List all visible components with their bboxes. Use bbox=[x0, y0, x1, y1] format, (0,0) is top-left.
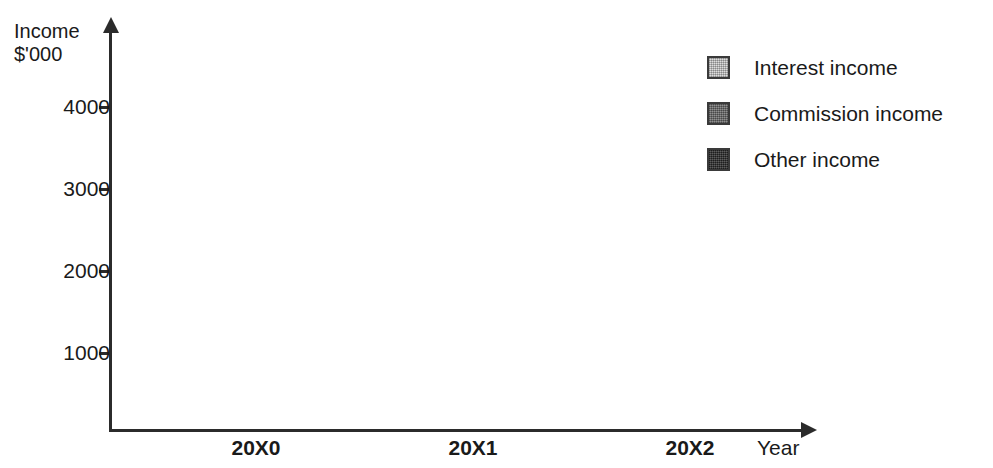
y-axis-arrow-icon bbox=[103, 17, 119, 33]
x-axis-arrow-icon bbox=[801, 422, 817, 438]
y-axis-title-line-2: $'000 bbox=[14, 43, 80, 66]
x-axis-title: Year bbox=[757, 436, 799, 460]
legend-item-interest-income: Interest income bbox=[707, 44, 943, 90]
legend: Interest income Commission income Other … bbox=[707, 44, 943, 182]
y-tick-label: 4000 bbox=[38, 96, 110, 117]
y-axis-title-line-1: Income bbox=[14, 20, 80, 42]
plot-area bbox=[112, 30, 801, 429]
income-by-year-chart: Income $'000 4000 3000 2000 1000 20X0 20… bbox=[0, 0, 993, 468]
y-tick-label: 3000 bbox=[38, 178, 110, 199]
x-axis-category-label-0: 20X0 bbox=[186, 436, 326, 460]
x-axis-category-label-1: 20X1 bbox=[403, 436, 543, 460]
legend-label-interest-income: Interest income bbox=[754, 56, 898, 79]
x-axis-category-label-2: 20X2 bbox=[620, 436, 760, 460]
legend-item-commission-income: Commission income bbox=[707, 90, 943, 136]
y-tick-label: 1000 bbox=[38, 342, 110, 363]
legend-label-other-income: Other income bbox=[754, 148, 880, 171]
legend-swatch-commission-income bbox=[707, 102, 730, 125]
y-axis-title: Income $'000 bbox=[14, 20, 80, 66]
legend-swatch-interest-income bbox=[707, 56, 730, 79]
legend-label-commission-income: Commission income bbox=[754, 102, 943, 125]
y-tick-label: 2000 bbox=[38, 260, 110, 281]
legend-item-other-income: Other income bbox=[707, 136, 943, 182]
legend-swatch-other-income bbox=[707, 148, 730, 171]
x-axis-line bbox=[109, 429, 805, 432]
y-axis-line bbox=[109, 30, 112, 432]
